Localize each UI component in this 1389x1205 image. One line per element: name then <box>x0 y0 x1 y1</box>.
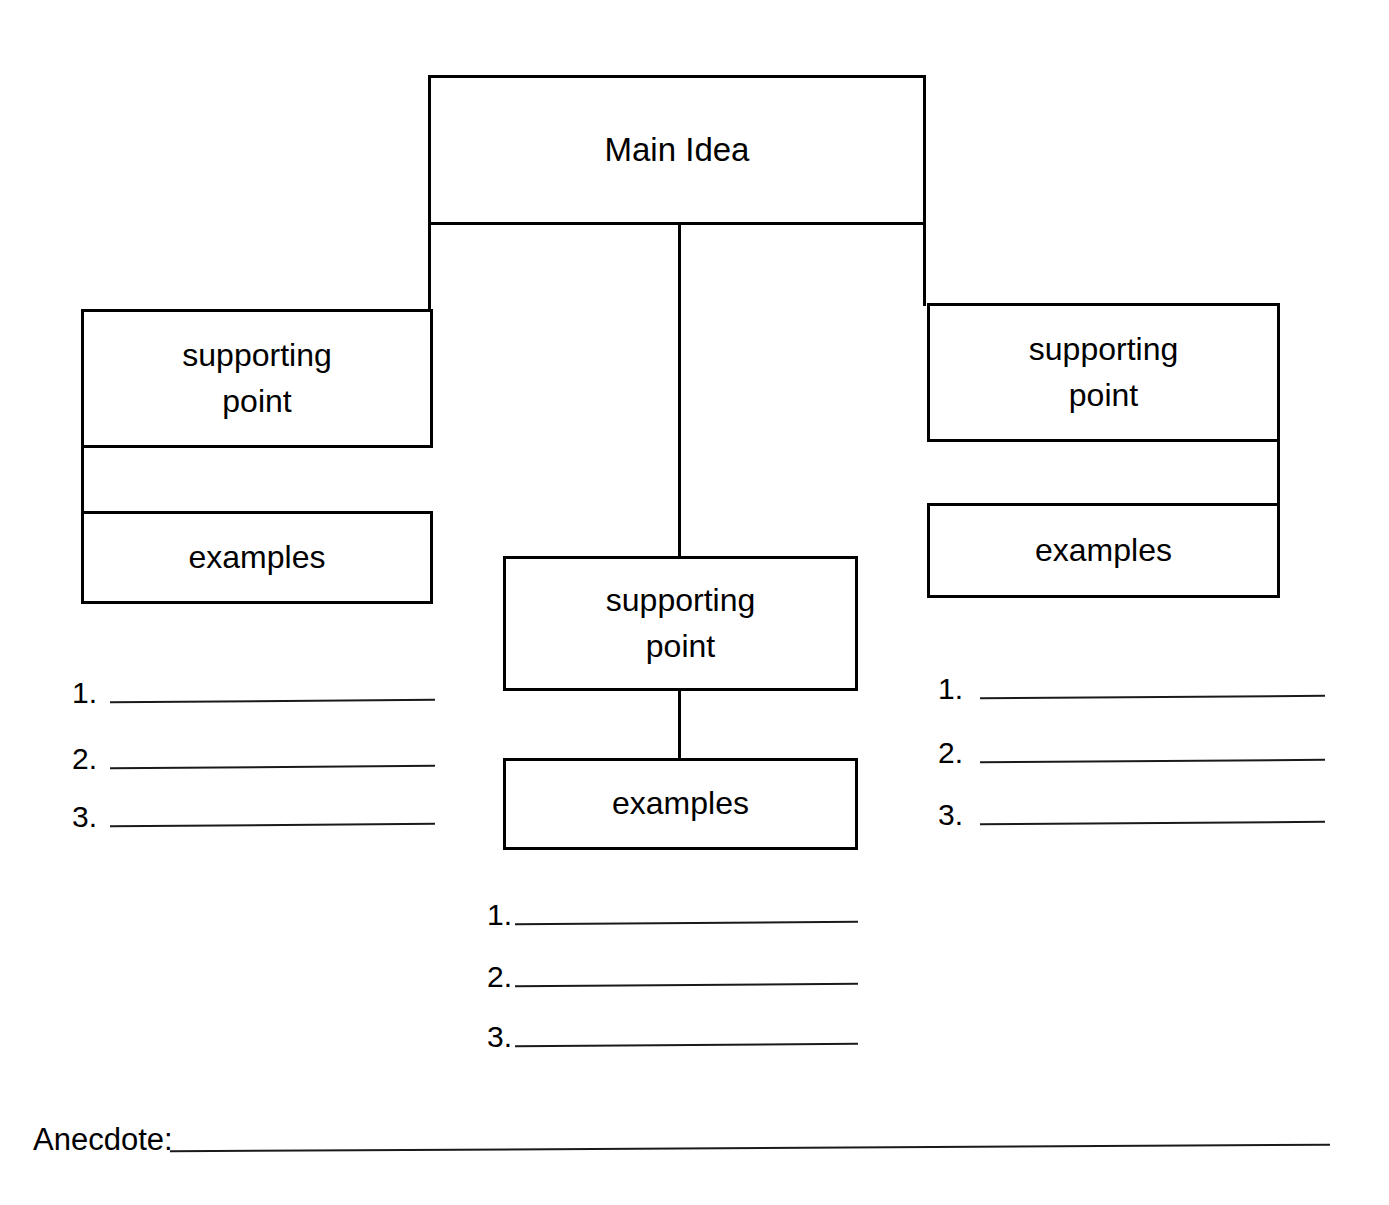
right-examples-box[interactable]: examples <box>927 503 1280 598</box>
left-supporting-point-label: supporting point <box>182 333 331 424</box>
right-list-line-1[interactable] <box>980 695 1325 699</box>
connector-main-to-left <box>428 222 431 312</box>
right-examples-label: examples <box>1035 528 1172 573</box>
center-list-number-1: 1. <box>487 900 512 930</box>
left-examples-label: examples <box>189 535 326 580</box>
anecdote-label: Anecdote: <box>33 1124 173 1155</box>
center-supporting-point-label: supporting point <box>606 578 755 669</box>
left-supporting-point-box[interactable]: supporting point <box>81 309 433 448</box>
connector-main-to-center <box>678 222 681 558</box>
center-examples-label: examples <box>612 781 749 826</box>
right-supporting-point-label: supporting point <box>1029 327 1178 418</box>
right-list-number-1: 1. <box>938 674 963 704</box>
center-branch-spine <box>678 688 681 760</box>
left-list-line-3[interactable] <box>110 823 435 828</box>
center-list-line-3[interactable] <box>515 1043 858 1048</box>
center-list-line-1[interactable] <box>515 921 858 926</box>
right-supporting-point-box[interactable]: supporting point <box>927 303 1280 442</box>
center-list-number-2: 2. <box>487 962 512 992</box>
right-branch-spine <box>1277 439 1280 507</box>
center-list-number-3: 3. <box>487 1022 512 1052</box>
main-idea-label: Main Idea <box>605 127 750 174</box>
center-examples-box[interactable]: examples <box>503 758 858 850</box>
left-examples-box[interactable]: examples <box>81 511 433 604</box>
center-supporting-point-box[interactable]: supporting point <box>503 556 858 691</box>
worksheet-page: Main Idea supporting point examples 1. 2… <box>0 0 1389 1205</box>
left-branch-spine <box>81 445 84 514</box>
left-list-line-1[interactable] <box>110 699 435 704</box>
right-list-line-3[interactable] <box>980 821 1325 825</box>
right-list-line-2[interactable] <box>980 759 1325 763</box>
anecdote-input-line[interactable] <box>170 1144 1330 1153</box>
right-list-number-2: 2. <box>938 738 963 768</box>
left-list-number-2: 2. <box>72 744 97 774</box>
left-list-number-3: 3. <box>72 802 97 832</box>
main-idea-box[interactable]: Main Idea <box>428 75 926 225</box>
right-list-number-3: 3. <box>938 800 963 830</box>
left-list-line-2[interactable] <box>110 765 435 770</box>
center-list-line-2[interactable] <box>515 983 858 988</box>
left-list-number-1: 1. <box>72 678 97 708</box>
connector-main-to-right <box>923 222 926 306</box>
